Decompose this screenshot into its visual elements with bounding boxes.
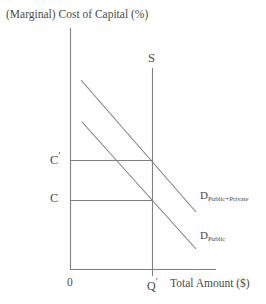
chart-title: (Marginal) Cost of Capital (%) <box>6 9 148 21</box>
demand-curve-public-line <box>82 122 196 249</box>
economics-chart-figure: (Marginal) Cost of Capital (%) S C′ C DP… <box>0 0 266 304</box>
demand-pp-subscript: Public+Private <box>208 195 249 202</box>
y-axis-tick-label-c-prime: C′ <box>50 151 61 167</box>
demand-curve-public-private-label: DPublic+Private <box>200 190 249 201</box>
demand-pp-main: D <box>200 189 208 201</box>
supply-curve-label: S <box>148 52 155 65</box>
demand-pub-subscript: Public <box>208 235 225 242</box>
prime-mark-icon: ′ <box>58 150 60 161</box>
x-axis-tick-label-q-prime: Q′ <box>147 277 158 292</box>
demand-pub-main: D <box>200 229 208 241</box>
y-axis-tick-label-c: C <box>50 192 58 205</box>
q-prime-base: Q <box>147 279 156 293</box>
demand-curve-public-label: DPublic <box>200 230 225 241</box>
chart-plot-area <box>0 0 266 304</box>
prime-mark-icon: ′ <box>156 276 158 287</box>
demand-curve-public-private-line <box>81 80 196 212</box>
x-axis-title: Total Amount ($) <box>170 278 250 290</box>
origin-label: 0 <box>67 277 73 289</box>
